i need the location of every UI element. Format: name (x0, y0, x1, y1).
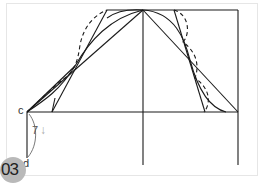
diagonal-right-steep (174, 10, 205, 112)
point-c-label: c (18, 104, 24, 116)
diagonal-left-steep (52, 10, 107, 112)
curve-left-dashed (27, 10, 107, 112)
curve-right-solid (143, 10, 226, 112)
diagonal-left-long (27, 10, 143, 112)
dimension-label: 7 (32, 124, 38, 136)
pattern-diagram (0, 0, 261, 183)
down-arrow-icon: ↓ (40, 123, 46, 137)
step-number: 03 (1, 160, 18, 180)
